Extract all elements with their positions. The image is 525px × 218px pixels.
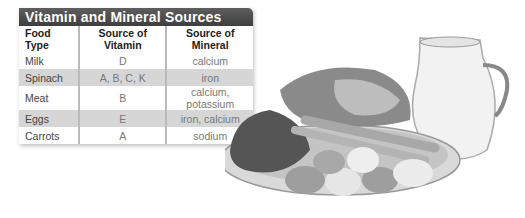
vitamin-mineral-table: Vitamin and Mineral Sources Food Type So… [19,8,253,144]
vitamin-cell: A, B, C, K [79,69,166,86]
food-cell: Spinach [19,69,79,86]
vitamin-cell: B [79,86,166,110]
food-cell: Eggs [19,110,79,127]
header-vitamin: Source of Vitamin [79,26,166,52]
table-row: Meat B calcium, potassium [19,86,253,110]
table-title: Vitamin and Mineral Sources [19,8,253,26]
vitamin-cell: D [79,52,166,69]
table-row: Spinach A, B, C, K iron [19,69,253,86]
table-row: Carrots A sodium [19,127,253,144]
food-cell: Milk [19,52,79,69]
sources-table: Food Type Source of Vitamin Source of Mi… [19,26,253,144]
header-food-type: Food Type [19,26,79,52]
food-cell: Meat [19,86,79,110]
header-row: Food Type Source of Vitamin Source of Mi… [19,26,253,52]
food-photo [225,30,525,218]
table-row: Milk D calcium [19,52,253,69]
vitamin-cell: A [79,127,166,144]
vitamin-cell: E [79,110,166,127]
food-cell: Carrots [19,127,79,144]
table-row: Eggs E iron, calcium [19,110,253,127]
